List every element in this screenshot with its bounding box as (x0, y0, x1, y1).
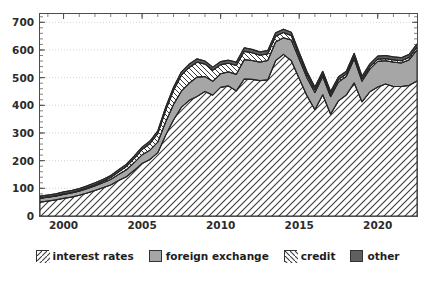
forward-hatch-swatch (36, 250, 49, 262)
x-tick-label: 2005 (127, 220, 156, 231)
x-tick-label: 2015 (285, 220, 314, 231)
backward-hatch-swatch (284, 250, 297, 262)
stacked-area-svg (40, 14, 417, 216)
area-series-group (40, 29, 417, 216)
legend-item-interest-rates[interactable]: interest rates (36, 250, 134, 262)
x-tick-label: 2020 (363, 220, 392, 231)
y-tick-label: 500 (12, 72, 34, 83)
legend-label: foreign exchange (166, 251, 269, 262)
solid-dark-swatch (350, 250, 363, 262)
y-tick-label: 0 (27, 211, 34, 222)
y-axis-labels: 0100200300400500600700 (0, 13, 34, 217)
legend-label: credit (301, 251, 336, 262)
y-tick-label: 600 (12, 45, 34, 56)
solid-gray-swatch (149, 250, 162, 262)
chart-legend: interest ratesforeign exchangecreditothe… (0, 250, 435, 262)
y-tick-label: 200 (12, 155, 34, 166)
legend-item-other[interactable]: other (350, 250, 399, 262)
legend-item-foreign-exchange[interactable]: foreign exchange (149, 250, 269, 262)
legend-item-credit[interactable]: credit (284, 250, 336, 262)
x-tick-label: 2000 (49, 220, 78, 231)
chart-root: 0100200300400500600700 (0, 0, 435, 281)
legend-label: other (367, 251, 399, 262)
y-tick-label: 100 (12, 183, 34, 194)
y-tick-label: 700 (12, 17, 34, 28)
legend-label: interest rates (53, 251, 134, 262)
x-tick-label: 2010 (206, 220, 235, 231)
y-tick-label: 400 (12, 100, 34, 111)
plot-area (39, 13, 418, 217)
y-tick-label: 300 (12, 128, 34, 139)
x-axis-labels: 20002005201020152020 (39, 220, 418, 238)
